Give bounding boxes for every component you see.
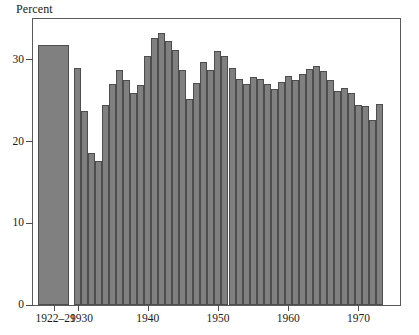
bar	[200, 62, 207, 306]
x-tick-mark	[148, 306, 149, 311]
y-tick-mark	[26, 223, 33, 224]
bar	[130, 93, 137, 305]
bar	[250, 77, 257, 305]
x-tick-label: 1960	[277, 312, 300, 325]
bar	[334, 91, 341, 305]
y-tick-mark	[26, 305, 33, 306]
plot-area	[33, 19, 400, 305]
bar	[271, 89, 278, 305]
y-axis-title: Percent	[16, 2, 53, 16]
bar	[264, 84, 271, 305]
x-tick-label: 1970	[347, 312, 370, 325]
bar	[179, 70, 186, 305]
bar	[172, 50, 179, 305]
bar	[102, 105, 109, 305]
bar	[299, 74, 306, 305]
bar	[38, 45, 69, 305]
x-tick-mark	[78, 306, 79, 311]
bar	[81, 111, 88, 305]
bar	[158, 33, 165, 305]
bar	[362, 106, 369, 305]
bar	[348, 93, 355, 305]
bar	[123, 80, 130, 305]
bar	[292, 80, 299, 305]
bar	[95, 161, 102, 305]
bar	[327, 80, 334, 305]
chart-figure: Percent 0102030 1922–2919301940195019601…	[0, 0, 419, 335]
x-tick-label: 1950	[206, 312, 229, 325]
bar	[137, 85, 144, 305]
bar	[257, 79, 264, 305]
y-tick-label: 10	[0, 217, 24, 229]
bar	[341, 88, 348, 305]
bar	[221, 56, 228, 305]
bar	[214, 51, 221, 305]
bar	[313, 66, 320, 305]
bar	[229, 68, 236, 305]
y-tick-mark	[26, 59, 33, 60]
bar	[207, 70, 214, 305]
bar	[285, 76, 292, 305]
y-tick-label: 0	[0, 299, 24, 311]
x-tick-mark	[54, 306, 55, 311]
x-tick-mark	[218, 306, 219, 311]
bar	[320, 71, 327, 305]
x-tick-mark	[358, 306, 359, 311]
bar	[165, 41, 172, 305]
bar	[109, 84, 116, 305]
bar	[74, 68, 81, 305]
bar	[355, 105, 362, 305]
bar	[306, 69, 313, 305]
y-tick-label: 30	[0, 54, 24, 66]
bar	[376, 104, 383, 305]
bar	[236, 79, 243, 305]
x-tick-label: 1930	[70, 312, 93, 325]
bar	[116, 70, 123, 305]
bar	[369, 120, 376, 305]
bar	[144, 56, 151, 305]
y-tick-mark	[26, 141, 33, 142]
bar	[243, 84, 250, 305]
bar	[193, 83, 200, 305]
bar	[151, 38, 158, 305]
y-tick-label: 20	[0, 136, 24, 148]
bar	[278, 82, 285, 305]
bar	[186, 99, 193, 305]
bar	[88, 153, 95, 305]
x-tick-mark	[288, 306, 289, 311]
x-tick-label: 1940	[136, 312, 159, 325]
